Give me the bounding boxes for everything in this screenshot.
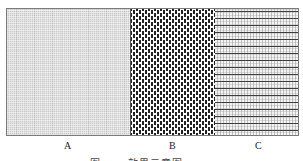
figure-caption: 图 · · · 效果示意图 (90, 155, 220, 161)
panel-c-line-pattern (215, 9, 298, 135)
pattern-figure (6, 8, 299, 136)
panel-b-label: B (169, 140, 176, 151)
panel-a-fine-grid (7, 9, 130, 135)
panel-b-dot-pattern (130, 9, 215, 135)
panel-a-label: A (64, 140, 71, 151)
panel-c-label: C (255, 140, 262, 151)
